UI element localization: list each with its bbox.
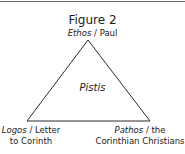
triangle-shape (27, 40, 150, 121)
bottom-left-term: Logos (2, 125, 27, 135)
center-label: Pistis (0, 82, 185, 94)
bottom-right-separator: / (143, 125, 151, 135)
bottom-left-label: Logos / Letter to Corinth (0, 125, 62, 146)
bottom-right-line2: Corinthian Christians (95, 136, 185, 147)
bottom-right-label: Pathos / the Corinthian Christians (95, 125, 185, 146)
bottom-left-line1: Logos / Letter (0, 125, 62, 136)
bottom-right-referent: the (152, 125, 166, 135)
bottom-left-referent: Letter (35, 125, 60, 135)
bottom-right-line1: Pathos / the (95, 125, 185, 136)
bottom-right-term: Pathos (115, 125, 144, 135)
bottom-left-line2: to Corinth (0, 136, 62, 147)
bottom-left-separator: / (27, 125, 35, 135)
